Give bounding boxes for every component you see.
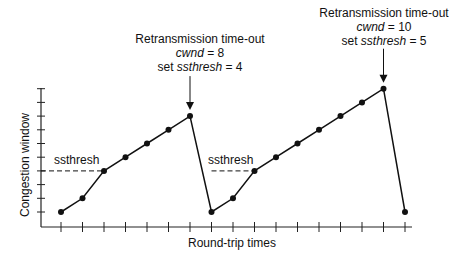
x-axis-label: Round-trip times — [188, 236, 276, 250]
cwnd-line — [61, 89, 405, 212]
data-point — [187, 113, 193, 119]
annotation-cwnd: cwnd = 8 — [130, 46, 270, 60]
arrow-down-icon — [186, 102, 194, 110]
data-point — [230, 195, 236, 201]
data-point — [209, 209, 215, 215]
data-point — [144, 141, 150, 147]
data-point — [58, 209, 64, 215]
data-point — [252, 168, 258, 174]
timeout-annotation-1: Retransmission time-out cwnd = 8 set sst… — [130, 32, 270, 74]
annotation-ssthresh: set ssthresh = 4 — [130, 60, 270, 74]
annotation-ssthresh: set ssthresh = 5 — [314, 34, 454, 48]
ssthresh-label-2: ssthresh — [208, 153, 253, 167]
data-point — [273, 154, 279, 160]
data-point — [101, 168, 107, 174]
timeout-annotation-2: Retransmission time-out cwnd = 10 set ss… — [314, 6, 454, 48]
data-point — [316, 127, 322, 133]
data-point — [295, 141, 301, 147]
data-point — [402, 209, 408, 215]
data-point — [80, 195, 86, 201]
annotation-cwnd: cwnd = 10 — [314, 20, 454, 34]
data-point — [381, 86, 387, 92]
cwnd-series — [58, 86, 408, 215]
y-axis-label: Congestion window — [18, 110, 32, 220]
data-point — [123, 154, 129, 160]
annotation-title: Retransmission time-out — [130, 32, 270, 46]
data-point — [166, 127, 172, 133]
annotation-title: Retransmission time-out — [314, 6, 454, 20]
data-point — [338, 113, 344, 119]
data-point — [359, 99, 365, 105]
arrow-down-icon — [380, 75, 388, 83]
ssthresh-label-1: ssthresh — [54, 153, 99, 167]
